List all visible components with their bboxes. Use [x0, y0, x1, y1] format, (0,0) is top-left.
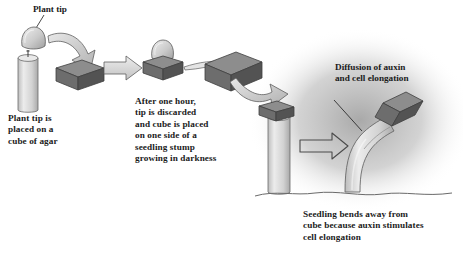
panel-two-caption: After one hour, tip is discarded and cub… — [135, 96, 216, 164]
agar-cube-panel-one — [56, 60, 104, 90]
seedling-stump-cylinder — [18, 50, 38, 112]
agar-cube-panel-two-a — [143, 56, 183, 80]
straight-stump — [268, 113, 290, 194]
panel-one-caption: Plant tip is placed on a cube of agar — [8, 113, 58, 147]
panel-three-caption: Seedling bends away from cube because au… — [303, 209, 424, 243]
diffusion-label: Diffusion of auxin and cell elongation — [335, 62, 409, 85]
plant-tip-dome — [22, 27, 46, 49]
figure-canvas: Plant tip Plant tip is placed on a cube … — [0, 0, 463, 255]
plant-tip-label: Plant tip — [33, 4, 67, 15]
block-arrow-one-to-two — [104, 56, 142, 80]
